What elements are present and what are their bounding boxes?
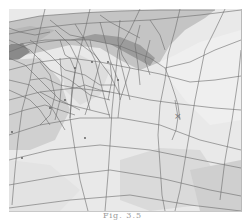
- mesh-render-frame: ×: [9, 9, 242, 212]
- mesh-surface: [9, 9, 241, 211]
- figure: × Fig. 3.5: [0, 0, 245, 220]
- marker-cross-icon: ×: [174, 111, 182, 121]
- figure-caption: Fig. 3.5: [0, 212, 245, 220]
